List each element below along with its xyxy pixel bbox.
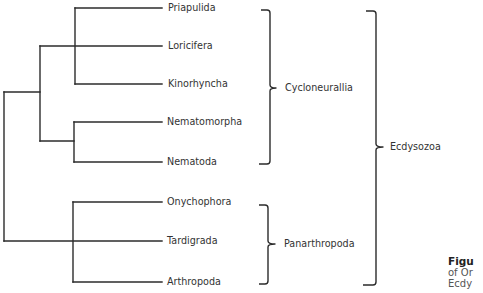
caption-line-1: of Or [448,267,483,278]
panarthropoda-bracket [259,205,275,284]
leaf-label-loricifera: Loricifera [168,40,213,51]
group-label-cycloneuralia: Cycloneurallia [285,82,353,93]
group-label-ecdysozoa: Ecdysozoa [390,141,441,152]
group-label-panarthropoda: Panarthropoda [284,238,355,249]
leaf-label-arthropoda: Arthropoda [167,276,221,287]
leaf-label-nematomorpha: Nematomorpha [167,116,242,127]
figure-caption: Figu of Or Ecdy [448,256,483,289]
ecdysozoa-bracket [363,11,383,285]
leaf-label-priapulida: Priapulida [168,2,216,13]
cycloneuralia-bracket [259,10,276,164]
leaf-label-onychophora: Onychophora [167,196,231,207]
caption-title: Figu [448,256,483,267]
phylogenetic-tree: Priapulida Loricifera Kinorhyncha Nemato… [0,0,483,293]
leaf-label-kinorhyncha: Kinorhyncha [168,78,228,89]
leaf-label-nematoda: Nematoda [167,156,217,167]
leaf-label-tardigrada: Tardigrada [166,235,218,246]
caption-line-2: Ecdy [448,278,483,289]
